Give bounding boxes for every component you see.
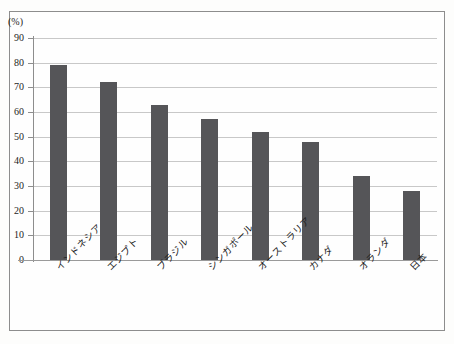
y-axis-tick-label: 40 xyxy=(0,156,24,166)
y-axis-tick-label: 80 xyxy=(0,58,24,68)
y-axis-tick-label: 20 xyxy=(0,206,24,216)
bar xyxy=(100,82,117,260)
bar xyxy=(50,65,67,260)
bar xyxy=(151,105,168,260)
bar xyxy=(252,132,269,260)
y-axis-tick-label: 30 xyxy=(0,181,24,191)
cropped-title-text xyxy=(150,0,450,7)
bar xyxy=(353,176,370,260)
chart-page: (%) 0102030405060708090 インドネシアエジプトブラジルシン… xyxy=(0,0,454,344)
bar xyxy=(302,142,319,260)
y-axis-tick-label: 70 xyxy=(0,82,24,92)
y-axis-unit-label: (%) xyxy=(8,16,23,27)
y-axis-tick-label: 90 xyxy=(0,33,24,43)
bar xyxy=(403,191,420,260)
bar xyxy=(201,119,218,260)
y-axis-tick-label: 60 xyxy=(0,107,24,117)
y-axis-tick-label: 10 xyxy=(0,230,24,240)
y-axis-tick-label: 50 xyxy=(0,132,24,142)
